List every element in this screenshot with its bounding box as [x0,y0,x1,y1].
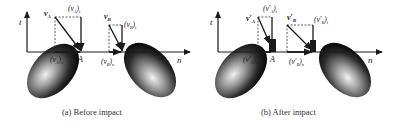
impact-diagram: t n vA (vA)t (vA)n A vB (vB)t (vB)n (a) … [0,0,399,131]
t-axis-label: t [210,17,213,27]
body-b [309,33,382,107]
vB-n-label: (vB)n [101,57,115,67]
t-axis-label: t [19,17,22,27]
vB-label: vB [104,12,112,22]
vB-t-label: (v′B)t [314,15,329,25]
caption-before-impact: (a) Before impact [62,107,123,117]
vB-t-arrowhead [310,40,316,52]
vA-t-label: (vA)t [68,4,81,14]
n-axis-label: n [177,55,182,65]
vA-label: vA [44,9,52,19]
n-axis-label: n [368,55,373,65]
vB-vector [109,25,122,50]
vB-t-label: (vB)t [124,20,137,30]
vB-label: v′B [287,13,297,23]
vA-label: v′A [246,14,256,24]
caption-after-impact: (b) After impact [261,107,316,117]
panel-before-impact: t n vA (vA)t (vA)n A vB (vB)t (vB)n (a) … [17,4,190,117]
body-a [17,34,90,108]
point-a-label: A [77,55,83,64]
vA-t-arrowhead [269,39,276,52]
vB-n-label: (v′B)n [289,57,305,67]
vA-t-label: (v′A)t [263,4,278,14]
body-b [114,33,187,107]
panel-after-impact: t n v′A (v′A)t (v′A)n A v′B (v′B)t (v′B)… [205,4,382,117]
body-a [205,34,278,108]
vB-vector [287,25,312,50]
vA-vector [258,17,270,44]
point-a-label: A [269,55,275,64]
